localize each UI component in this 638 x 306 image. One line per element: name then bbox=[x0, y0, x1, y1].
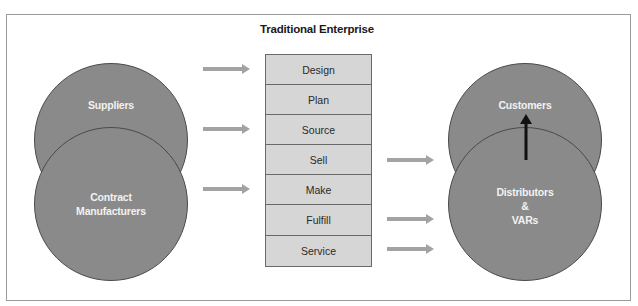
function-make: Make bbox=[266, 175, 371, 205]
function-fulfill: Fulfill bbox=[266, 205, 371, 235]
arrow-right-icon bbox=[203, 184, 250, 194]
customers-label: Customers bbox=[448, 98, 602, 112]
function-design: Design bbox=[266, 55, 371, 85]
function-sell: Sell bbox=[266, 145, 371, 175]
function-source: Source bbox=[266, 115, 371, 145]
diagram-title: Traditional Enterprise bbox=[240, 23, 394, 35]
function-plan: Plan bbox=[266, 85, 371, 115]
distributors-label: Distributors & VARs bbox=[448, 185, 602, 227]
distributors-label-line1: Distributors bbox=[448, 185, 602, 199]
contract-manufacturers-label: Contract Manufacturers bbox=[34, 190, 188, 218]
suppliers-label: Suppliers bbox=[34, 98, 188, 112]
arrow-right-icon bbox=[387, 244, 434, 254]
contract-label-line1: Contract bbox=[34, 190, 188, 204]
arrow-right-icon bbox=[387, 214, 434, 224]
function-service: Service bbox=[266, 236, 371, 266]
arrow-right-icon bbox=[203, 124, 250, 134]
distributors-label-line2: & bbox=[448, 199, 602, 213]
enterprise-function-stack: Design Plan Source Sell Make Fulfill Ser… bbox=[265, 54, 372, 267]
arrow-right-icon bbox=[203, 64, 250, 74]
up-arrow-icon bbox=[518, 114, 534, 160]
distributors-label-line3: VARs bbox=[448, 213, 602, 227]
arrow-right-icon bbox=[387, 155, 434, 165]
contract-label-line2: Manufacturers bbox=[34, 204, 188, 218]
